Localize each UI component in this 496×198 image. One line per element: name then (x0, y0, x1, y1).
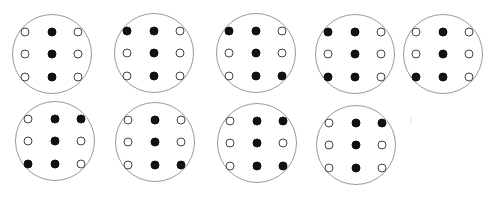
filled-dot-icon (51, 115, 60, 124)
filled-dot-icon (439, 73, 448, 82)
empty-dot-icon (465, 50, 474, 59)
empty-dot-icon (465, 28, 474, 37)
empty-dot-icon (377, 28, 386, 37)
empty-dot-icon (278, 27, 287, 36)
filled-dot-icon (279, 162, 288, 171)
filled-dot-icon (252, 49, 261, 58)
filled-dot-icon (352, 141, 361, 150)
filled-dot-icon (150, 72, 159, 81)
empty-dot-icon (177, 138, 186, 147)
empty-dot-icon (177, 116, 186, 125)
filled-dot-icon (324, 73, 333, 82)
filled-dot-icon (378, 119, 387, 128)
filled-dot-icon (252, 72, 261, 81)
empty-dot-icon (176, 27, 185, 36)
filled-dot-icon (48, 50, 57, 59)
empty-dot-icon (123, 49, 132, 58)
empty-dot-icon (24, 115, 33, 124)
filled-dot-icon (412, 73, 421, 82)
filled-dot-icon (324, 28, 333, 37)
filled-dot-icon (51, 160, 60, 169)
empty-dot-icon (124, 116, 133, 125)
filled-dot-icon (252, 27, 261, 36)
empty-dot-icon (226, 162, 235, 171)
empty-dot-icon (465, 73, 474, 82)
filled-dot-icon (24, 160, 33, 169)
empty-dot-icon (412, 28, 421, 37)
filled-dot-icon (439, 28, 448, 37)
filled-dot-icon (151, 138, 160, 147)
filled-dot-icon (352, 119, 361, 128)
empty-dot-icon (74, 28, 83, 37)
empty-dot-icon (325, 119, 334, 128)
filled-dot-icon (77, 115, 86, 124)
empty-dot-icon (176, 72, 185, 81)
empty-dot-icon (279, 139, 288, 148)
faint-mark (410, 117, 412, 125)
filled-dot-icon (351, 28, 360, 37)
empty-dot-icon (412, 50, 421, 59)
filled-dot-icon (279, 117, 288, 126)
filled-dot-icon (150, 27, 159, 36)
empty-dot-icon (21, 50, 30, 59)
filled-dot-icon (150, 49, 159, 58)
filled-dot-icon (151, 116, 160, 125)
filled-dot-icon (48, 28, 57, 37)
empty-dot-icon (74, 50, 83, 59)
empty-dot-icon (325, 141, 334, 150)
empty-dot-icon (325, 164, 334, 173)
filled-dot-icon (151, 161, 160, 170)
empty-dot-icon (226, 117, 235, 126)
filled-dot-icon (123, 27, 132, 36)
filled-dot-icon (225, 27, 234, 36)
filled-dot-icon (352, 164, 361, 173)
empty-dot-icon (225, 72, 234, 81)
filled-dot-icon (253, 139, 262, 148)
filled-dot-icon (253, 117, 262, 126)
empty-dot-icon (124, 138, 133, 147)
filled-dot-icon (439, 50, 448, 59)
empty-dot-icon (21, 73, 30, 82)
empty-dot-icon (377, 73, 386, 82)
filled-dot-icon (51, 137, 60, 146)
filled-dot-icon (48, 73, 57, 82)
empty-dot-icon (176, 49, 185, 58)
empty-dot-icon (378, 164, 387, 173)
empty-dot-icon (278, 49, 287, 58)
empty-dot-icon (21, 28, 30, 37)
empty-dot-icon (377, 50, 386, 59)
filled-dot-icon (253, 162, 262, 171)
empty-dot-icon (225, 49, 234, 58)
filled-dot-icon (351, 73, 360, 82)
filled-dot-icon (177, 161, 186, 170)
empty-dot-icon (378, 141, 387, 150)
filled-dot-icon (351, 50, 360, 59)
empty-dot-icon (74, 73, 83, 82)
empty-dot-icon (123, 72, 132, 81)
empty-dot-icon (324, 50, 333, 59)
empty-dot-icon (124, 161, 133, 170)
empty-dot-icon (24, 137, 33, 146)
filled-dot-icon (278, 72, 287, 81)
empty-dot-icon (77, 160, 86, 169)
empty-dot-icon (77, 137, 86, 146)
empty-dot-icon (226, 139, 235, 148)
